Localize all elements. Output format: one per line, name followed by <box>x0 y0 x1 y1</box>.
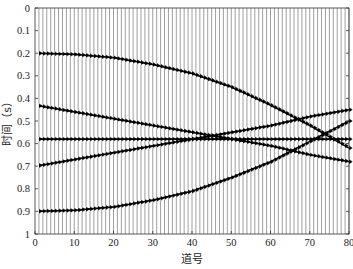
x-tick-label: 60 <box>265 237 276 248</box>
x-tick-label: 30 <box>148 237 159 248</box>
trace-line <box>180 8 183 234</box>
trace-line <box>310 8 313 234</box>
event-trend-line <box>39 121 349 211</box>
x-tick-label: 10 <box>69 237 80 248</box>
trace-line <box>90 8 93 234</box>
x-tick-label: 0 <box>32 237 37 248</box>
trace-line <box>247 8 250 234</box>
trace-line <box>188 8 191 234</box>
y-tick-label: 0.7 <box>17 161 30 172</box>
trace-line <box>251 8 254 234</box>
y-tick-label: 0.8 <box>17 183 30 194</box>
x-tick-label: 50 <box>226 237 237 248</box>
trace-line <box>314 8 317 234</box>
trace-line <box>325 8 328 234</box>
trace-line <box>82 8 85 234</box>
trace-line <box>243 8 246 234</box>
trace-line <box>62 8 65 234</box>
trace-line <box>274 8 277 234</box>
trace-line <box>212 8 215 234</box>
y-tick-label: 1 <box>25 229 30 240</box>
trace-line <box>341 8 344 234</box>
trace-line <box>184 8 187 234</box>
trace-line <box>267 8 270 234</box>
trace-line <box>59 8 62 234</box>
trace-line <box>78 8 81 234</box>
trace-line <box>227 8 230 234</box>
trace-line <box>165 8 168 234</box>
trace-line <box>219 8 222 234</box>
trace-line <box>263 8 266 234</box>
trace-line <box>74 8 77 234</box>
trace-line <box>223 8 226 234</box>
trace-line <box>337 8 340 234</box>
trace-line <box>51 8 54 234</box>
trace-line <box>192 8 195 234</box>
y-tick-label: 0 <box>25 3 30 14</box>
trace-line <box>94 8 97 234</box>
trace-line <box>106 8 109 234</box>
trace-line <box>141 8 144 234</box>
trace-line <box>196 8 199 234</box>
trace-line <box>255 8 258 234</box>
trace-line <box>204 8 207 234</box>
trace-line <box>55 8 58 234</box>
trace-line <box>318 8 321 234</box>
trace-line <box>216 8 219 234</box>
trace-line <box>114 8 117 234</box>
trace-line <box>200 8 203 234</box>
y-tick-label: 0.3 <box>17 70 30 81</box>
x-axis-label: 道号 <box>181 252 203 266</box>
y-axis-label: 时间（s） <box>1 96 14 146</box>
trace-line <box>47 8 50 234</box>
y-tick-label: 0.1 <box>17 25 30 36</box>
trace-line <box>235 8 238 234</box>
trace-line <box>102 8 105 234</box>
trace-line <box>39 8 42 234</box>
trace-line <box>86 8 89 234</box>
y-tick-label: 0.2 <box>17 48 30 59</box>
x-tick-label: 40 <box>187 237 198 248</box>
trace-line <box>333 8 336 234</box>
y-tick-label: 0.5 <box>17 116 30 127</box>
y-tick-label: 0.4 <box>17 93 31 104</box>
trace-line <box>231 8 234 234</box>
trace-line <box>208 8 211 234</box>
trace-line <box>278 8 281 234</box>
trace-line <box>110 8 113 234</box>
trace-line <box>43 8 46 234</box>
event-trend-line <box>39 53 349 148</box>
trace-line <box>176 8 179 234</box>
trace-line <box>172 8 175 234</box>
trace-line <box>168 8 171 234</box>
seismic-wiggle-chart: 00.10.20.30.40.50.60.70.80.91 0102030405… <box>0 0 353 269</box>
x-tick-label: 70 <box>305 237 316 248</box>
y-tick-label: 0.6 <box>17 138 30 149</box>
x-axis: 01020304050607080 <box>32 231 353 248</box>
trace-line <box>271 8 274 234</box>
y-tick-label: 0.9 <box>17 206 30 217</box>
trace-lines <box>39 8 352 234</box>
trace-line <box>322 8 325 234</box>
x-tick-label: 20 <box>108 237 119 248</box>
trace-line <box>329 8 332 234</box>
trace-line <box>239 8 242 234</box>
trace-line <box>66 8 69 234</box>
trace-line <box>98 8 101 234</box>
trace-line <box>306 8 309 234</box>
x-tick-label: 80 <box>344 237 353 248</box>
trace-line <box>70 8 73 234</box>
trace-line <box>259 8 262 234</box>
event-trend-line <box>39 106 349 162</box>
